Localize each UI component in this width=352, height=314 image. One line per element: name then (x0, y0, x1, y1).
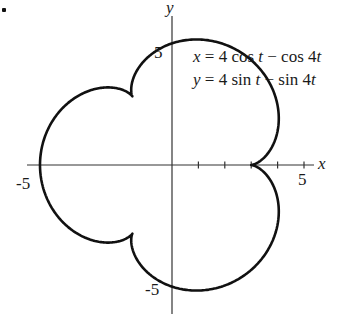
x-tick-label-5: 5 (298, 170, 307, 189)
equation-x: x = 4 cos t − cos 4t (192, 47, 323, 66)
y-tick-label-5: 5 (154, 43, 163, 62)
x-tick-label-neg5: -5 (16, 174, 30, 193)
y-tick-label-neg5: -5 (145, 280, 159, 299)
parametric-plot: y x 5 -5 5 -5 x = 4 cos t − cos 4t y = 4… (0, 0, 352, 314)
y-axis-label: y (164, 0, 174, 17)
equation-y: y = 4 sin t − sin 4t (191, 70, 317, 89)
x-axis-label: x (317, 154, 326, 173)
